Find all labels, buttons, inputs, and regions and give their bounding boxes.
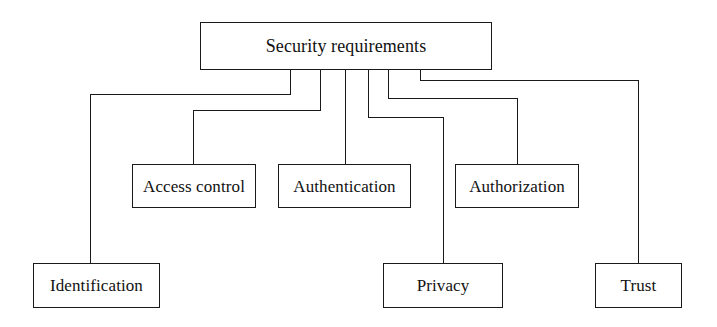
node-trust-label: Trust	[621, 277, 657, 294]
node-authorization-label: Authorization	[469, 178, 565, 195]
node-identification: Identification	[33, 263, 160, 308]
node-authorization: Authorization	[455, 164, 579, 208]
node-trust: Trust	[595, 263, 682, 308]
node-privacy: Privacy	[383, 263, 503, 308]
node-access-control-label: Access control	[143, 178, 245, 195]
node-authentication: Authentication	[278, 164, 411, 208]
node-root: Security requirements	[200, 22, 492, 70]
node-root-label: Security requirements	[266, 37, 427, 55]
connector-root-to-access-control	[193, 70, 320, 164]
node-access-control: Access control	[132, 164, 256, 208]
security-requirements-diagram: Security requirements Access control Aut…	[0, 0, 717, 327]
node-privacy-label: Privacy	[417, 277, 470, 294]
node-authentication-label: Authentication	[293, 178, 395, 195]
node-identification-label: Identification	[50, 277, 143, 294]
